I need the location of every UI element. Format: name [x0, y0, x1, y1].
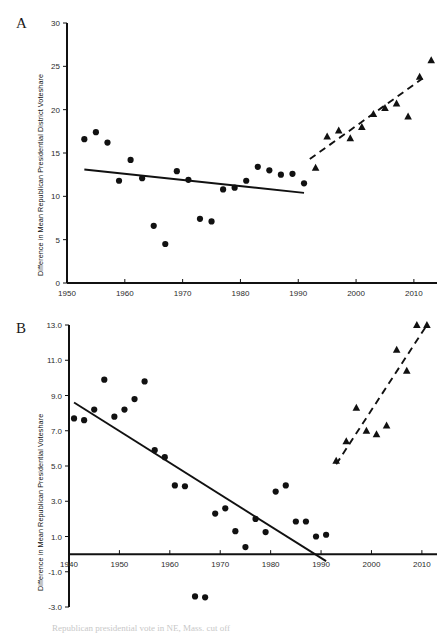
- data-point-circle: [151, 223, 157, 229]
- data-point-circle: [242, 544, 248, 550]
- y-tick-label: 0: [56, 279, 61, 288]
- data-point-triangle: [370, 110, 378, 117]
- y-tick-label: 25: [51, 62, 60, 71]
- y-tick-label: 1.0: [51, 533, 63, 542]
- data-point-circle: [162, 241, 168, 247]
- panel-a: A Difference in Mean Republican Presiden…: [0, 0, 444, 316]
- data-point-triangle: [353, 404, 361, 411]
- data-point-circle: [232, 528, 238, 534]
- data-point-triangle: [335, 126, 343, 133]
- data-point-circle: [220, 186, 226, 192]
- data-point-triangle: [346, 134, 354, 141]
- data-point-circle: [197, 216, 203, 222]
- data-point-circle: [255, 164, 261, 170]
- data-point-circle: [212, 510, 218, 516]
- data-point-circle: [301, 180, 307, 186]
- data-point-circle: [152, 447, 158, 453]
- data-point-circle: [81, 417, 87, 423]
- x-tick-label: 1950: [111, 560, 129, 569]
- data-point-circle: [232, 185, 238, 191]
- y-tick-label: 10: [51, 192, 60, 201]
- y-tick-label: 30: [51, 19, 60, 28]
- y-tick-label: 9.0: [51, 392, 63, 401]
- data-point-triangle: [373, 430, 381, 437]
- data-point-triangle: [342, 437, 350, 444]
- data-point-circle: [111, 414, 117, 420]
- y-tick-label: -3.0: [48, 603, 62, 612]
- panel-b-plot: -3.0-1.01.03.05.07.09.011.013.0194019501…: [0, 316, 444, 631]
- data-point-circle: [293, 518, 299, 524]
- x-tick-label: 1990: [312, 560, 330, 569]
- data-point-circle: [222, 505, 228, 511]
- data-point-circle: [162, 454, 168, 460]
- y-tick-label: 5: [56, 236, 61, 245]
- data-point-triangle: [323, 133, 331, 140]
- data-point-triangle: [393, 100, 401, 107]
- x-tick-label: 2000: [347, 289, 365, 298]
- data-point-triangle: [423, 321, 431, 328]
- data-point-circle: [273, 488, 279, 494]
- x-tick-label: 2010: [405, 289, 423, 298]
- x-tick-label: 1940: [60, 560, 78, 569]
- data-point-circle: [303, 518, 309, 524]
- data-point-circle: [252, 516, 258, 522]
- x-tick-label: 1960: [161, 560, 179, 569]
- data-point-circle: [93, 129, 99, 135]
- data-point-circle: [131, 396, 137, 402]
- data-point-triangle: [413, 321, 421, 328]
- trendline-solid: [74, 403, 326, 562]
- y-tick-label: 13.0: [46, 321, 62, 330]
- data-point-circle: [202, 594, 208, 600]
- data-point-circle: [208, 218, 214, 224]
- data-point-circle: [243, 178, 249, 184]
- data-point-circle: [127, 157, 133, 163]
- y-tick-label: 3.0: [51, 497, 63, 506]
- panel-b: B Difference in Mean Republican Presiden…: [0, 316, 444, 631]
- y-tick-label: 5.0: [51, 462, 63, 471]
- x-tick-label: 1980: [262, 560, 280, 569]
- data-point-circle: [101, 377, 107, 383]
- data-point-circle: [71, 415, 77, 421]
- data-point-circle: [172, 482, 178, 488]
- data-point-circle: [121, 407, 127, 413]
- trendline-dashed: [336, 325, 427, 464]
- data-point-circle: [116, 178, 122, 184]
- data-point-circle: [142, 378, 148, 384]
- data-point-circle: [104, 140, 110, 146]
- data-point-triangle: [416, 73, 424, 80]
- data-point-triangle: [393, 346, 401, 353]
- y-tick-label: 11.0: [47, 356, 63, 365]
- x-tick-label: 2010: [413, 560, 431, 569]
- data-point-triangle: [383, 421, 391, 428]
- data-point-circle: [263, 529, 269, 535]
- y-tick-label: 7.0: [51, 427, 63, 436]
- data-point-circle: [266, 167, 272, 173]
- data-point-circle: [81, 136, 87, 142]
- x-tick-label: 1990: [289, 289, 307, 298]
- data-point-circle: [174, 168, 180, 174]
- cut-off-caption: Republican presidential vote in NE, Mass…: [52, 623, 412, 633]
- data-point-circle: [278, 172, 284, 178]
- data-point-circle: [139, 175, 145, 181]
- data-point-circle: [289, 171, 295, 177]
- data-point-circle: [283, 482, 289, 488]
- data-point-triangle: [363, 427, 371, 434]
- data-point-circle: [323, 532, 329, 538]
- x-tick-label: 1970: [174, 289, 192, 298]
- data-point-circle: [91, 407, 97, 413]
- y-tick-label: 15: [51, 149, 60, 158]
- panel-a-plot: 0510152025301950196019701980199020002010: [0, 0, 444, 316]
- data-point-circle: [192, 593, 198, 599]
- data-point-triangle: [403, 367, 411, 374]
- x-tick-label: 1950: [58, 289, 76, 298]
- data-point-circle: [185, 177, 191, 183]
- data-point-triangle: [404, 113, 412, 120]
- x-tick-label: 2000: [363, 560, 381, 569]
- x-tick-label: 1970: [211, 560, 229, 569]
- data-point-circle: [313, 533, 319, 539]
- data-point-triangle: [427, 56, 435, 63]
- x-tick-label: 1960: [116, 289, 134, 298]
- data-point-circle: [182, 483, 188, 489]
- x-tick-label: 1980: [232, 289, 250, 298]
